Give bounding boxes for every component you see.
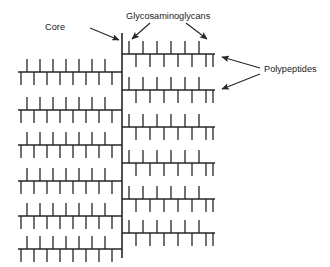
label-glycosaminoglycans: Glycosaminoglycans bbox=[126, 11, 211, 21]
proteoglycan-diagram: Core Glycosaminoglycans Polypeptides bbox=[0, 0, 330, 267]
label-polypeptides: Polypeptides bbox=[264, 64, 317, 74]
diagram-canvas: Core Glycosaminoglycans Polypeptides bbox=[0, 0, 330, 267]
background bbox=[0, 0, 330, 267]
label-core: Core bbox=[45, 22, 65, 32]
